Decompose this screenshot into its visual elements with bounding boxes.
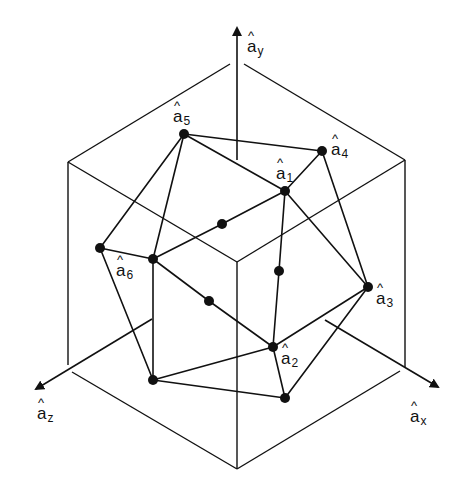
label-a6: a6 <box>116 262 133 281</box>
label-a4: a4 <box>331 141 348 160</box>
vertex-front-left <box>148 254 158 264</box>
z-axis <box>36 319 152 389</box>
vertex-a1 <box>280 186 290 196</box>
label-a-x: ax <box>410 408 426 427</box>
icosahedron-edges <box>100 134 368 398</box>
label-a-z: az <box>37 405 53 424</box>
vertex-hidden-3 <box>204 296 214 306</box>
vertex-a5 <box>179 129 189 139</box>
x-axis <box>325 320 438 387</box>
icosahedron-diagram <box>0 0 461 497</box>
label-a5: a5 <box>173 108 190 127</box>
vertex-hidden-2 <box>274 266 284 276</box>
vertex-hidden-1 <box>217 219 227 229</box>
icosahedron-vertices <box>95 129 373 403</box>
vertex-a3 <box>363 282 373 292</box>
label-a-y: ay <box>247 38 263 57</box>
vertex-a6 <box>95 243 105 253</box>
vertex-a4 <box>317 146 327 156</box>
label-a1: a1 <box>276 165 293 184</box>
vertex-bottom-left <box>148 375 158 385</box>
label-a3: a3 <box>376 290 393 309</box>
vertex-bottom-right <box>280 393 290 403</box>
label-a2: a2 <box>281 350 298 369</box>
vertex-a2 <box>268 342 278 352</box>
